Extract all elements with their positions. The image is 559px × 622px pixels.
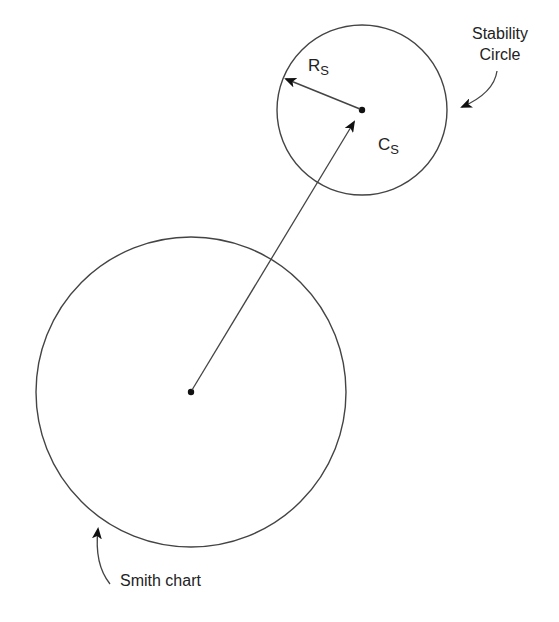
radius-arrow: [286, 79, 360, 109]
stability-circle-label-line2: Circle: [480, 46, 521, 63]
smith-chart-label: Smith chart: [120, 572, 201, 589]
stability-circle-diagram: RS CS Stability Circle Smith chart: [0, 0, 559, 622]
stability-circle-label-line1: Stability: [472, 25, 528, 42]
center-vector-arrow: [192, 122, 354, 390]
stability-circle-center-dot: [359, 107, 365, 113]
smith-chart-pointer-arrow: [97, 529, 110, 584]
stability-circle-pointer-arrow: [462, 71, 497, 107]
radius-label: RS: [308, 56, 329, 78]
smith-chart-center-dot: [188, 389, 194, 395]
center-label: CS: [378, 135, 399, 157]
